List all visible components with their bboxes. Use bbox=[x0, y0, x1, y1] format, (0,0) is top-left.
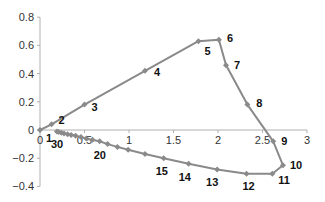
point-label: 10 bbox=[290, 159, 302, 171]
diamond-marker-icon bbox=[186, 161, 192, 167]
diamond-marker-icon bbox=[216, 37, 222, 43]
diamond-marker-icon bbox=[125, 147, 131, 153]
point-label: 11 bbox=[278, 174, 290, 186]
point-label: 12 bbox=[242, 180, 254, 192]
point-label: 6 bbox=[227, 32, 233, 44]
diamond-marker-icon bbox=[105, 141, 111, 147]
point-label: 13 bbox=[206, 176, 218, 188]
diamond-marker-icon bbox=[97, 138, 103, 144]
x-tick-label: 0 bbox=[37, 134, 43, 146]
diamond-marker-icon bbox=[161, 155, 167, 161]
x-tick-label: 2 bbox=[215, 134, 221, 146]
point-label: 30 bbox=[51, 138, 63, 150]
point-label: 2 bbox=[59, 114, 65, 126]
point-label: 9 bbox=[281, 135, 287, 147]
point-label: 15 bbox=[156, 165, 168, 177]
x-tick-label: 1.5 bbox=[166, 134, 181, 146]
parametric-trajectory-chart: 0.80.60.40.20−0.2−0.400.511.522.53 12345… bbox=[0, 0, 325, 202]
x-tick-label: 3 bbox=[304, 134, 310, 146]
diamond-marker-icon bbox=[114, 144, 120, 150]
point-label: 20 bbox=[94, 149, 106, 161]
point-label: 3 bbox=[92, 101, 98, 113]
point-label: 8 bbox=[256, 97, 262, 109]
diamond-marker-icon bbox=[214, 166, 220, 172]
y-tick-label: −0.2 bbox=[12, 152, 34, 164]
diamond-marker-icon bbox=[142, 151, 148, 157]
point-label: 4 bbox=[154, 66, 161, 78]
y-tick-label: 0.2 bbox=[19, 96, 34, 108]
y-tick-label: 0.8 bbox=[19, 11, 34, 23]
x-tick-label: 1 bbox=[126, 134, 132, 146]
y-tick-label: 0 bbox=[28, 124, 34, 136]
point-label: 14 bbox=[179, 171, 192, 183]
x-tick-label: 2.5 bbox=[255, 134, 270, 146]
data-series bbox=[37, 37, 286, 177]
diamond-marker-icon bbox=[243, 171, 249, 177]
point-label: 5 bbox=[204, 45, 210, 57]
y-tick-label: 0.6 bbox=[19, 39, 34, 51]
point-label: 7 bbox=[234, 59, 240, 71]
y-tick-label: −0.4 bbox=[12, 180, 34, 192]
y-tick-label: 0.4 bbox=[19, 68, 34, 80]
